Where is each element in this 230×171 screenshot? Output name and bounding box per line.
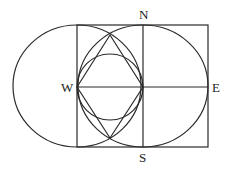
label-north: N: [139, 8, 148, 21]
label-south: S: [139, 151, 146, 164]
label-west: W: [61, 81, 73, 94]
label-east: E: [212, 81, 220, 94]
compass-construction-diagram: [0, 0, 230, 171]
